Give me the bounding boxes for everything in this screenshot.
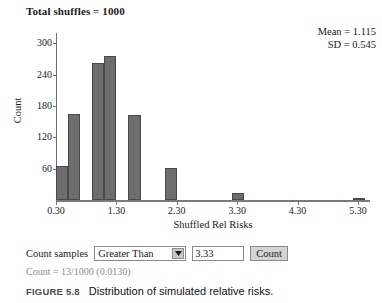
x-tick-label: 3.30 <box>217 205 257 216</box>
y-tick-text: 120 <box>26 132 52 142</box>
y-tick-label: 60 <box>24 164 52 174</box>
y-tick-mark <box>53 106 56 107</box>
y-tick-text: 60 <box>26 164 52 174</box>
y-tick-label: 120 <box>24 132 52 142</box>
summary-statistics: Mean = 1.115 SD = 0.545 <box>318 26 376 51</box>
y-tick-label: 240 <box>24 70 52 80</box>
y-axis-title: Count <box>12 81 23 141</box>
histogram-plot: Mean = 1.115 SD = 0.545 Count 6012018024… <box>0 0 382 240</box>
histogram-bar <box>353 198 365 200</box>
y-tick-mark <box>53 137 56 138</box>
x-axis-title: Shuffled Rel Risks <box>56 219 370 230</box>
count-result-text: Count = 13/1000 (0.0130) <box>26 266 131 277</box>
x-tick-label: 2.30 <box>157 205 197 216</box>
y-tick-label: 180 <box>24 101 52 111</box>
histogram-bar <box>104 56 116 200</box>
x-axis-line <box>56 200 370 202</box>
y-tick-text: 240 <box>26 70 52 80</box>
histogram-bar <box>165 168 177 200</box>
histogram-bar <box>128 115 140 200</box>
histogram-bar <box>56 166 68 200</box>
sd-label: SD = 0.545 <box>318 39 376 52</box>
histogram-bar <box>232 193 244 200</box>
histogram-bar <box>68 114 80 200</box>
x-tick-label: 4.30 <box>278 205 318 216</box>
y-tick-text: 180 <box>26 101 52 111</box>
figure-number: FIGURE 5.8 <box>26 286 80 297</box>
x-tick-label: 1.30 <box>96 205 136 216</box>
histogram-bar <box>92 63 104 200</box>
y-tick-label: 300 <box>24 38 52 48</box>
x-tick-label: 0.30 <box>36 205 76 216</box>
y-tick-mark <box>53 43 56 44</box>
y-tick-text: 300 <box>26 38 52 48</box>
mean-label: Mean = 1.115 <box>318 26 376 39</box>
comparison-select-value: Greater Than <box>98 248 153 259</box>
count-samples-label: Count samples <box>26 248 88 259</box>
y-tick-mark <box>53 75 56 76</box>
x-tick-label: 5.30 <box>338 205 378 216</box>
comparison-select[interactable]: Greater Than <box>94 246 186 261</box>
count-button[interactable]: Count <box>250 246 288 261</box>
figure-caption: FIGURE 5.8 Distribution of simulated rel… <box>26 285 273 297</box>
count-controls: Count samples Greater Than Count <box>26 246 288 261</box>
threshold-input[interactable] <box>192 246 244 261</box>
figure-title: Distribution of simulated relative risks… <box>89 285 274 297</box>
chevron-down-icon[interactable] <box>172 248 184 259</box>
